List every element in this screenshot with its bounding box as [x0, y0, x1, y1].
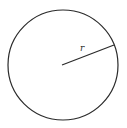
radius-line [62, 45, 114, 65]
radius-label: r [80, 43, 85, 53]
circle-diagram: r [0, 0, 127, 128]
